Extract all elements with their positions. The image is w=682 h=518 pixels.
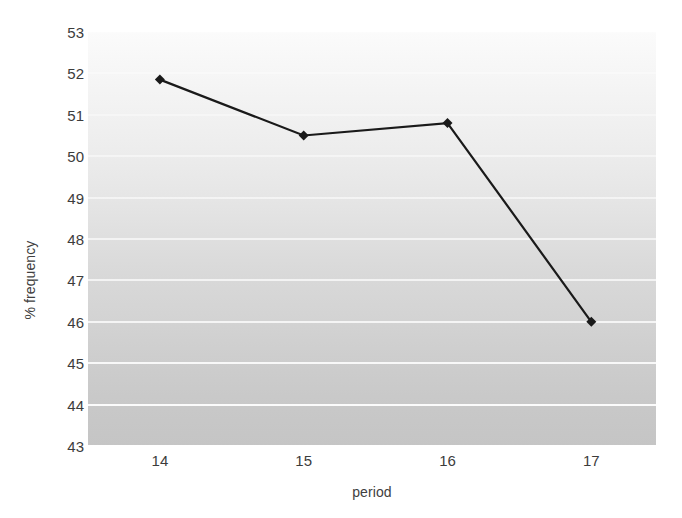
y-axis-tick-label: 49	[67, 189, 84, 206]
x-axis-tick-label: 14	[152, 452, 169, 469]
data-point-marker	[299, 131, 309, 141]
x-axis-tick-label: 17	[583, 452, 600, 469]
y-axis-tick-label: 50	[67, 148, 84, 165]
y-axis-tick-label: 48	[67, 231, 84, 248]
x-axis-tick-labels: 14151617	[88, 452, 656, 474]
y-axis-tick-labels: 5352515049484746454443	[44, 26, 84, 450]
plot-area	[88, 32, 656, 446]
y-axis-tick-label: 47	[67, 272, 84, 289]
series-line-frequency	[160, 80, 591, 322]
y-axis-title-text: % frequency	[22, 241, 38, 320]
y-axis-tick-label: 52	[67, 65, 84, 82]
x-axis-title: period	[88, 484, 656, 500]
x-axis-tick-label: 16	[439, 452, 456, 469]
x-axis-tick-label: 15	[295, 452, 312, 469]
y-axis-tick-label: 53	[67, 24, 84, 41]
y-axis-tick-label: 44	[67, 396, 84, 413]
y-axis-tick-label: 46	[67, 313, 84, 330]
x-axis-title-text: period	[352, 484, 392, 500]
y-axis-tick-label: 43	[67, 438, 84, 455]
data-series-layer	[88, 32, 656, 446]
y-axis-tick-label: 45	[67, 355, 84, 372]
y-axis-tick-label: 51	[67, 106, 84, 123]
data-point-marker	[155, 75, 165, 85]
series-markers-frequency	[155, 75, 596, 327]
line-chart: % frequency 5352515049484746454443 14151…	[0, 0, 682, 518]
